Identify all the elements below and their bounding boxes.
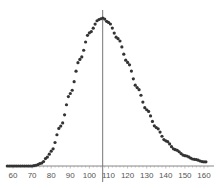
data-point [63,113,66,116]
data-point [65,103,68,106]
data-point [69,92,72,95]
data-point [147,110,150,113]
data-point [149,114,152,117]
data-point [80,55,83,58]
x-tick-label: 110 [102,171,115,180]
x-tick-label: 100 [83,171,97,180]
data-point [158,131,161,134]
data-point [86,34,89,37]
data-point [113,31,116,34]
data-point [55,133,58,136]
x-tick-label: 150 [178,171,192,180]
data-point [128,63,131,66]
data-point [46,156,49,159]
x-tick-label: 90 [66,171,75,180]
data-point [122,53,125,56]
x-axis-tick-labels: 60 70 80 90 100 110 120 130 140 150 160 [9,171,212,180]
x-tick-label: 140 [159,171,173,180]
data-point [130,69,133,72]
data-point [52,147,55,150]
data-point [53,141,56,144]
data-point [73,80,76,83]
x-tick-label: 70 [28,171,37,180]
x-axis: 60 70 80 90 100 110 120 130 140 150 160 [6,166,214,180]
data-point [82,49,85,52]
x-tick-label: 120 [121,171,135,180]
data-point [139,94,142,97]
data-point [42,160,45,163]
data-point [137,88,140,91]
data-point [132,77,135,80]
data-point [71,89,74,92]
data-point [59,124,62,127]
x-tick-label: 60 [9,171,18,180]
data-point [157,127,160,130]
data-point [74,70,77,73]
density-curve-points [6,16,208,167]
data-point [118,39,121,42]
data-point [141,100,144,103]
data-point [61,121,64,124]
data-point [160,135,163,138]
data-point [109,22,112,25]
data-point [94,22,97,25]
data-point [76,61,79,64]
data-point [78,58,81,61]
data-point [120,45,123,48]
data-point [48,153,51,156]
x-tick-label: 130 [140,171,154,180]
data-point [111,26,114,29]
data-point [151,120,154,123]
data-point [67,95,70,98]
x-tick-label: 80 [47,171,56,180]
data-point [168,142,171,145]
data-point [90,30,93,33]
data-point [84,40,87,43]
data-point [92,27,95,30]
data-point [204,160,207,163]
density-chart: 60 70 80 90 100 110 120 130 140 150 160 [0,0,223,188]
x-tick-label: 160 [197,171,211,180]
